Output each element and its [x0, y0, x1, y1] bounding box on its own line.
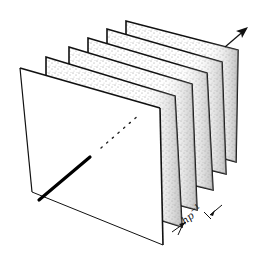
wavefront-planes-diagram — [0, 0, 264, 262]
propagation-arrow-icon — [225, 27, 248, 47]
